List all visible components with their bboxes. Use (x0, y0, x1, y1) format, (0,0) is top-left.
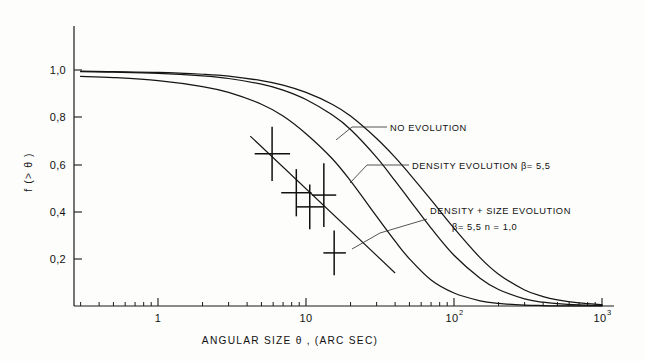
data-point (281, 169, 311, 216)
data-point (255, 127, 290, 181)
y-tick-label-0.8: 0,8 (50, 111, 66, 123)
x-tick-exponent-100: 2 (459, 308, 463, 317)
y-tick-label-0.4: 0,4 (50, 206, 66, 218)
y-axis-title: f (> θ ) (22, 152, 34, 191)
data-point (323, 230, 346, 275)
annotation-density-evolution: DENSITY EVOLUTION β= 5,5 (412, 161, 551, 171)
y-tick-label-0.2: 0,2 (50, 253, 66, 265)
angular-size-distribution-chart: 1,0 0,8 0,6 0,4 0,2 1 10 10 2 10 3 ANGUL… (0, 0, 645, 361)
data-points-group (255, 127, 346, 276)
annotation-density-size-evolution: DENSITY + SIZE EVOLUTION (430, 206, 571, 216)
x-tick-label-1000: 10 (594, 312, 607, 324)
x-tick-exponent-1000: 3 (607, 308, 611, 317)
x-tick-label-10: 10 (300, 312, 313, 324)
y-axis-tick-labels: 1,0 0,8 0,6 0,4 0,2 (50, 64, 66, 265)
annotation-no-evolution: NO EVOLUTION (390, 123, 467, 133)
y-tick-label-0.6: 0,6 (50, 159, 66, 171)
figure-container: 1,0 0,8 0,6 0,4 0,2 1 10 10 2 10 3 ANGUL… (0, 0, 645, 361)
curve-no-evolution (81, 71, 602, 304)
y-axis-ticks (74, 70, 82, 259)
model-curves (81, 71, 602, 306)
leader-line-no-evolution (336, 127, 387, 140)
data-point (312, 163, 336, 227)
annotation-density-size-params: β= 5,5 n = 1,0 (452, 222, 517, 232)
x-tick-label-100: 10 (446, 312, 459, 324)
leader-line-density-evolution (350, 165, 409, 183)
annotations: NO EVOLUTION DENSITY EVOLUTION β= 5,5 DE… (390, 123, 571, 232)
data-point (297, 184, 323, 229)
x-axis-tick-labels: 1 10 10 2 10 3 (155, 308, 611, 324)
curve-density-size-evolution (81, 76, 602, 306)
curve-density-evolution (81, 72, 602, 306)
x-tick-label-1: 1 (155, 312, 161, 324)
y-tick-label-1.0: 1,0 (50, 64, 66, 76)
x-axis-title: ANGULAR SIZE θ , (ARC SEC) (202, 335, 378, 346)
